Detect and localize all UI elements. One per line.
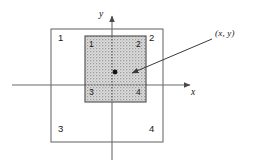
x-axis-label: x — [191, 88, 195, 98]
figure-container: 1 2 3 4 1 2 3 4 y x (x, y) — [0, 0, 255, 166]
point-coordinate-label: (x, y) — [215, 29, 235, 38]
outer-quadrant-label-3: 3 — [58, 124, 63, 134]
outer-quadrant-label-1: 1 — [58, 33, 63, 43]
inner-quadrant-label-4: 4 — [136, 88, 141, 97]
inner-quadrant-label-1: 1 — [89, 40, 94, 49]
inner-quadrant-label-3: 3 — [89, 88, 94, 97]
inner-quadrant-label-2: 2 — [136, 40, 141, 49]
y-axis-label: y — [99, 10, 103, 20]
outer-quadrant-label-2: 2 — [149, 33, 154, 43]
outer-quadrant-label-4: 4 — [149, 124, 154, 134]
diagram-canvas — [0, 0, 255, 166]
data-point-dot — [113, 70, 118, 75]
